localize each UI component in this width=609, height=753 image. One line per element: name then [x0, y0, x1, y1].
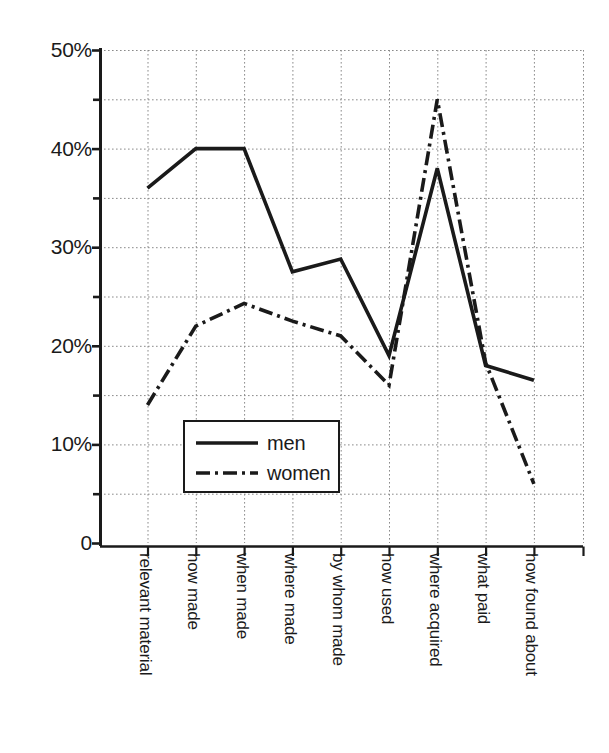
line-chart: 50%40%30%20%10%0 men women [0, 0, 609, 753]
x-axis-tick-label: what paid [475, 553, 492, 624]
x-axis-tick-label: where made [282, 553, 299, 645]
x-axis-tick-label: how used [379, 553, 396, 624]
x-axis-tick-label: when made [234, 553, 251, 639]
x-axis-tick-label: where acquired [427, 553, 444, 666]
x-axis-label-group: relevant materialhow madewhen madewhere … [0, 0, 609, 753]
x-axis-tick-label: how found about [523, 553, 540, 676]
x-axis-tick-label: how made [185, 553, 202, 630]
x-axis-tick-label: by whom made [330, 553, 347, 666]
x-axis-tick-label: relevant material [137, 553, 154, 675]
